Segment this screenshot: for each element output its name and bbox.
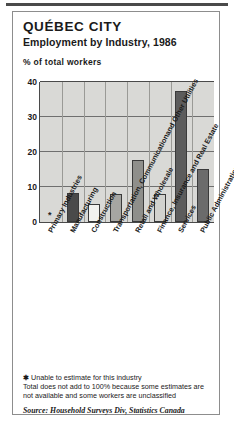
footnote-asterisk-text: Unable to estimate for this industry [31,373,142,382]
y-tick-40: 40 [28,77,37,87]
source-line: Source: Household Surveys Div, Statistic… [23,406,209,415]
x-axis-category-labels: Primary IndustriesManufacturingConstruct… [20,228,225,368]
asterisk-icon: ✱ [23,373,29,382]
y-axis-label: % of total workers [23,57,102,67]
page-title: QUÉBEC CITY [23,19,122,34]
footnote-asterisk-line: ✱Unable to estimate for this industry [23,373,209,382]
y-tick-10: 10 [28,182,37,192]
footnote-line-2: not available and some workers are uncla… [23,391,209,400]
category-separator-7 [192,82,193,222]
chart-footnotes: ✱Unable to estimate for this industry To… [23,373,209,415]
y-tick-30: 30 [28,112,37,122]
y-tick-20: 20 [28,147,37,157]
footnote-line-1: Total does not add to 100% because some … [23,382,209,391]
chart-subtitle: Employment by Industry, 1986 [23,36,177,48]
top-rule [6,3,228,6]
y-tick-0: 0 [32,217,37,227]
